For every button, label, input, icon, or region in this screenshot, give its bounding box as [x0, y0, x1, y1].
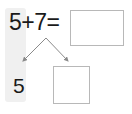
unknown-part-answer-box[interactable]	[53, 66, 90, 104]
arrow-to-unknown-part	[46, 38, 68, 61]
arrow-to-known-part	[23, 38, 46, 61]
known-part-value: 5	[13, 75, 25, 97]
worksheet-canvas: 5+7= 5	[0, 0, 132, 114]
